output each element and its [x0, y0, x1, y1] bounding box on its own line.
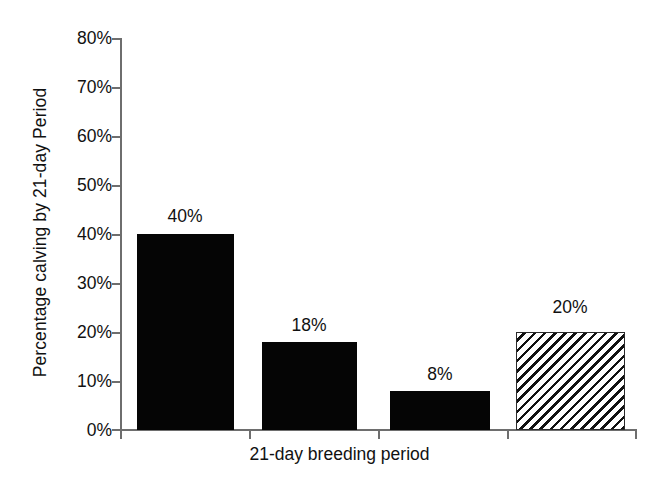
bar-4: [516, 332, 625, 430]
bar-value-label-4: 20%: [552, 297, 587, 318]
bar-value-label-1: 40%: [167, 206, 202, 227]
bar-value-label-2: 18%: [291, 315, 326, 336]
bar-chart: Percentage calving by 21-day Period 80% …: [0, 0, 659, 489]
bar-1: [137, 234, 234, 430]
x-axis-title-text: 21-day breeding period: [250, 444, 430, 464]
bar-2: [262, 342, 357, 430]
x-axis-title: 21-day breeding period: [0, 444, 659, 465]
bar-3: [390, 391, 490, 430]
bars-layer: [0, 0, 659, 489]
bar-value-label-3: 8%: [427, 364, 452, 385]
